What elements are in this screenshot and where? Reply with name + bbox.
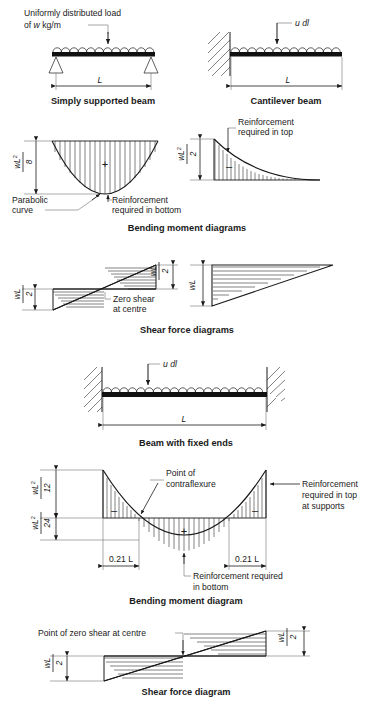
fixed-bmd-bottom-leader <box>184 556 191 576</box>
sfd-cant-hatching <box>213 267 320 299</box>
dim021-right-label: 0.21 L <box>235 554 259 564</box>
caption-sfd-row: Shear force diagrams <box>140 325 234 335</box>
contraflexure-line1: Point of <box>166 468 196 478</box>
fixed-bmd-bot-label: wL2 24 <box>30 512 52 534</box>
cantilever-load-label: u dl <box>295 18 310 28</box>
sfd-ss-note-line1: Zero shear <box>113 294 155 304</box>
support-right <box>144 57 158 73</box>
fixed-bmd-bottom-line1: Reinforcement required <box>193 571 283 581</box>
sfd-ss-note-line2: at centre <box>113 304 147 314</box>
svg-text:24: 24 <box>43 518 52 529</box>
panel-fixed-sfd: Point of zero shear at centre wL 2 <box>38 628 310 697</box>
svg-text:wL2: wL2 <box>30 516 40 530</box>
fixed-bmd-sign-mid: + <box>181 525 187 537</box>
support-left <box>49 57 63 73</box>
fixed-wall-right <box>267 367 285 412</box>
panel-cantilever-beam: u dl L Cantilever beam <box>208 18 342 106</box>
caption-fixed-sfd: Shear force diagram <box>142 687 231 697</box>
cantilever-span-label: L <box>286 75 291 85</box>
svg-text:2: 2 <box>161 268 170 274</box>
svg-text:wL2: wL2 <box>30 481 40 495</box>
bmd-ss-reinf-line1: Reinforcement <box>112 195 168 205</box>
panel-fixed-bmd: – – + wL2 12 wL2 24 Point of contraflexu… <box>30 468 358 606</box>
svg-text:2: 2 <box>189 151 198 157</box>
svg-text:2: 2 <box>55 660 64 666</box>
fixed-wall-left <box>84 367 102 412</box>
bmd-cant-note-line2: required in top <box>238 127 293 137</box>
span-label: L <box>98 75 103 85</box>
panel-bmd-cantilever: – wL2 2 Reinforcement required in top Be… <box>128 117 320 233</box>
beam-diagrams-figure: Uniformly distributed load of w kg/m L S… <box>0 0 375 702</box>
panel-sfd-cantilever: wL Shear force diagrams <box>140 265 333 335</box>
svg-text:wL2: wL2 <box>176 147 186 161</box>
parabolic-note-line1: Parabolic <box>12 195 49 205</box>
svg-text:8: 8 <box>25 159 34 164</box>
svg-text:wL: wL <box>13 289 22 299</box>
caption-bmd-row: Bending moment diagrams <box>128 223 246 233</box>
panel-sfd-simply-supported: wL 2 wL 2 Zero shear at centre <box>13 262 178 314</box>
svg-text:wL: wL <box>43 658 52 668</box>
sfd-ss-right-label: wL 2 <box>149 262 170 280</box>
udl-note-line1: Uniformly distributed load <box>24 8 121 18</box>
fixed-bmd-top-label: wL2 12 <box>30 477 52 499</box>
sfd-cant-label: wL <box>188 280 197 290</box>
caption-fixed-bmd: Bending moment diagram <box>129 596 242 606</box>
panel-bmd-simply-supported: + wL2 8 Parabolic curve Reinforcement re… <box>12 141 181 215</box>
bmd-ss-sign: + <box>102 158 108 170</box>
caption-fixed-beam: Beam with fixed ends <box>139 438 233 448</box>
sfd-ss-zero-leader <box>105 292 111 299</box>
fixed-sfd-note-leader <box>175 633 183 650</box>
svg-text:wL: wL <box>149 266 158 276</box>
bmd-ss-ordinate-label: wL2 8 <box>12 152 34 172</box>
parabolic-note-line2: curve <box>12 205 33 215</box>
fixed-sfd-right-label: wL 2 <box>277 628 298 646</box>
caption-simply-supported: Simply supported beam <box>51 96 155 106</box>
fixed-udl-scallops <box>103 388 263 392</box>
svg-text:wL2: wL2 <box>12 155 22 169</box>
fixed-span-label: L <box>182 414 187 424</box>
fixed-sfd-note: Point of zero shear at centre <box>38 628 146 638</box>
bmd-cant-note-line1: Reinforcement <box>238 117 294 127</box>
fixed-beam-member <box>102 392 267 397</box>
beam-member <box>52 52 155 57</box>
svg-text:12: 12 <box>43 483 52 493</box>
figure-svg: Uniformly distributed load of w kg/m L S… <box>0 0 375 702</box>
fixed-bmd-reinf-line1: Reinforcement <box>302 479 358 489</box>
caption-cantilever: Cantilever beam <box>251 96 322 106</box>
fixed-bmd-sign-left: – <box>111 504 118 516</box>
parabolic-arrow <box>92 194 100 200</box>
panel-fixed-beam: u dl L Beam with fixed ends <box>84 359 285 448</box>
parabolic-leader <box>45 196 98 210</box>
svg-text:2: 2 <box>289 634 298 640</box>
fixed-bmd-bottom-line2: in bottom <box>193 582 228 592</box>
cantilever-member <box>230 52 342 57</box>
sfd-ss-left-label: wL 2 <box>13 285 34 303</box>
udl-leader <box>88 25 108 34</box>
dim021-left-label: 0.21 L <box>109 554 133 564</box>
fixed-sfd-left-label: wL 2 <box>43 654 64 672</box>
fixed-bmd-reinf-line3: at supports <box>302 501 345 511</box>
fixed-bmd-sign-right: – <box>252 504 259 516</box>
cantilever-udl-scallops <box>231 48 340 52</box>
bmd-ss-reinf-line2: required in bottom <box>112 205 181 215</box>
svg-text:wL: wL <box>277 632 286 642</box>
fixed-bmd-reinf-line2: required in top <box>302 490 357 500</box>
bmd-cant-ordinate-label: wL2 2 <box>176 144 198 164</box>
contraflexure-line2: contraflexure <box>166 479 216 489</box>
wall-support-hatch <box>208 32 230 76</box>
fixed-load-label: u dl <box>163 359 178 369</box>
panel-simply-supported-beam: Uniformly distributed load of w kg/m L S… <box>24 8 158 106</box>
udl-scallops <box>53 48 154 52</box>
contraflexure-arrow <box>141 483 158 514</box>
bmd-cant-sign: – <box>226 160 233 172</box>
udl-note-line2: of w kg/m <box>24 20 61 30</box>
svg-text:2: 2 <box>25 291 34 297</box>
